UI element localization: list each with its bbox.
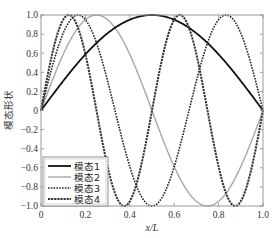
x-tick-label: 0.8 [213, 210, 225, 220]
y-tick-label: 0.6 [26, 49, 38, 59]
legend-label: 模态3 [74, 183, 100, 194]
y-tick-label: 0.8 [26, 29, 38, 39]
y-axis-label: 模态形状 [3, 90, 14, 130]
y-tick-label: −0.2 [21, 125, 38, 135]
y-tick-label: −1.0 [21, 201, 38, 211]
x-axis-label: x/L [145, 222, 159, 233]
x-tick-label: 0.6 [168, 210, 180, 220]
legend-label: 模态2 [74, 172, 100, 183]
y-tick-label: 0.4 [26, 68, 38, 78]
y-tick-label: −0.4 [21, 144, 38, 154]
y-tick-label: −0.8 [21, 182, 38, 192]
legend: 模态1模态2模态3模态4 [43, 157, 108, 206]
curve-mode-1 [41, 15, 263, 111]
y-tick-label: 1.0 [26, 10, 38, 20]
y-tick-label: 0.2 [26, 87, 38, 97]
x-tick-label: 0.4 [124, 210, 136, 220]
x-tick-label: 0 [39, 210, 44, 220]
legend-label: 模态1 [74, 161, 100, 172]
mode-shape-chart: −1.0−0.8−0.6−0.4−0.200.20.40.60.81.0 00.… [0, 0, 278, 238]
x-tick-label: 0.2 [79, 210, 91, 220]
y-tick-label: 0 [33, 106, 38, 116]
y-tick-label: −0.6 [21, 163, 38, 173]
x-tick-label: 1.0 [257, 210, 269, 220]
legend-label: 模态4 [74, 194, 100, 205]
